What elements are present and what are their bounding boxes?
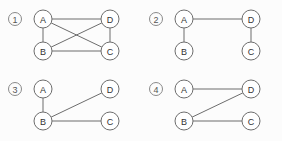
- graph-node-label-D: D: [248, 85, 255, 95]
- graph-canvas-3: ADBC3: [0, 70, 141, 140]
- graph-node-B[interactable]: B: [175, 42, 193, 60]
- graph-canvas-2: ADBC2: [141, 0, 282, 70]
- graph-node-D[interactable]: D: [101, 80, 119, 98]
- graph-panel-3: ADBC3: [0, 70, 141, 140]
- panel-index-3: 3: [9, 83, 22, 96]
- graph-node-label-C: C: [107, 117, 114, 127]
- graph-node-label-D: D: [107, 15, 114, 25]
- graph-panel-4: ADBC4: [141, 70, 282, 140]
- graph-node-C[interactable]: C: [101, 112, 119, 130]
- graph-node-A[interactable]: A: [175, 10, 193, 28]
- graph-node-C[interactable]: C: [101, 42, 119, 60]
- graph-node-label-B: B: [181, 47, 187, 57]
- panel-index-label: 2: [153, 15, 158, 25]
- graph-node-D[interactable]: D: [242, 80, 260, 98]
- graph-node-label-B: B: [181, 117, 187, 127]
- graph-node-label-B: B: [40, 117, 46, 127]
- graph-panel-1: ADBC1: [0, 0, 141, 70]
- graph-panel-2: ADBC2: [141, 0, 282, 70]
- graph-edge-B-D: [192, 93, 243, 117]
- panel-index-label: 4: [153, 85, 158, 95]
- graph-node-label-C: C: [107, 47, 114, 57]
- graph-node-B[interactable]: B: [34, 112, 52, 130]
- graph-node-C[interactable]: C: [242, 112, 260, 130]
- graph-node-D[interactable]: D: [242, 10, 260, 28]
- graph-node-label-A: A: [40, 85, 46, 95]
- graph-node-B[interactable]: B: [175, 112, 193, 130]
- panel-index-4: 4: [150, 83, 163, 96]
- panel-index-2: 2: [150, 13, 163, 26]
- graph-figure: ADBC1ADBC2ADBC3ADBC4: [0, 0, 282, 141]
- graph-node-label-A: A: [181, 85, 187, 95]
- graph-node-A[interactable]: A: [175, 80, 193, 98]
- graph-node-C[interactable]: C: [242, 42, 260, 60]
- graph-node-A[interactable]: A: [34, 10, 52, 28]
- graph-node-label-D: D: [248, 15, 255, 25]
- graph-node-label-A: A: [181, 15, 187, 25]
- graph-node-label-A: A: [40, 15, 46, 25]
- graph-canvas-4: ADBC4: [141, 70, 282, 140]
- graph-node-label-B: B: [40, 47, 46, 57]
- graph-node-D[interactable]: D: [101, 10, 119, 28]
- graph-edge-B-D: [51, 93, 102, 117]
- panel-index-label: 3: [12, 85, 17, 95]
- graph-node-A[interactable]: A: [34, 80, 52, 98]
- graph-canvas-1: ADBC1: [0, 0, 141, 70]
- panel-index-1: 1: [9, 13, 22, 26]
- graph-node-label-D: D: [107, 85, 114, 95]
- panel-index-label: 1: [12, 15, 17, 25]
- graph-node-label-C: C: [248, 117, 255, 127]
- graph-node-B[interactable]: B: [34, 42, 52, 60]
- graph-node-label-C: C: [248, 47, 255, 57]
